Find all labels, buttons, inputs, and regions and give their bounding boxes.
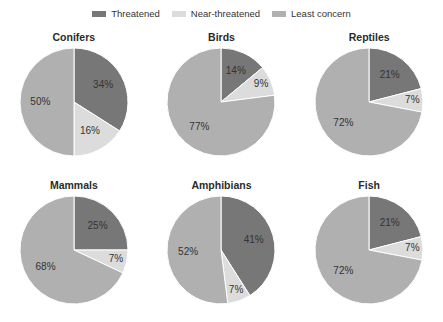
legend-item-label: Threatened <box>111 9 160 19</box>
pie-chart-title: Fish <box>358 180 380 191</box>
pie-chart-conifers: Conifers34%16%50% <box>0 26 148 174</box>
pie-chart-fish: Fish21%7%72% <box>295 174 443 322</box>
legend-swatch-icon <box>272 11 286 17</box>
pie-svg <box>18 46 130 158</box>
pie-chart-title: Conifers <box>53 32 96 43</box>
pie-chart-amphibians: Amphibians41%7%52% <box>148 174 296 322</box>
pie-chart-title: Amphibians <box>191 180 251 191</box>
pie-slice[interactable] <box>74 196 128 250</box>
legend-swatch-icon <box>172 11 186 17</box>
pie-svg <box>313 194 425 306</box>
legend-item[interactable]: Least concern <box>272 9 351 19</box>
chart-legend: ThreatenedNear-threatenedLeast concern <box>0 4 443 24</box>
pie-graphic: 34%16%50% <box>18 46 130 158</box>
pie-slice[interactable] <box>20 48 74 156</box>
legend-swatch-icon <box>92 11 106 17</box>
pie-chart-grid: Conifers34%16%50%Birds14%9%77%Reptiles21… <box>0 26 443 322</box>
pie-graphic: 14%9%77% <box>165 46 277 158</box>
pie-svg <box>313 46 425 158</box>
pie-slice[interactable] <box>167 195 228 303</box>
pie-graphic: 21%7%72% <box>313 194 425 306</box>
legend-item-label: Least concern <box>291 9 351 19</box>
pie-svg <box>165 194 277 306</box>
pie-chart-title: Reptiles <box>349 32 390 43</box>
pie-svg <box>165 46 277 158</box>
pie-chart-birds: Birds14%9%77% <box>148 26 296 174</box>
pie-chart-title: Birds <box>208 32 235 43</box>
pie-chart-reptiles: Reptiles21%7%72% <box>295 26 443 174</box>
legend-item[interactable]: Near-threatened <box>172 9 260 19</box>
pie-chart-mammals: Mammals25%7%68% <box>0 174 148 322</box>
pie-chart-panel: ThreatenedNear-threatenedLeast concern C… <box>0 0 443 322</box>
pie-graphic: 21%7%72% <box>313 46 425 158</box>
pie-svg <box>18 194 130 306</box>
pie-graphic: 25%7%68% <box>18 194 130 306</box>
legend-item[interactable]: Threatened <box>92 9 160 19</box>
pie-chart-title: Mammals <box>50 180 98 191</box>
legend-item-label: Near-threatened <box>191 9 260 19</box>
pie-graphic: 41%7%52% <box>165 194 277 306</box>
